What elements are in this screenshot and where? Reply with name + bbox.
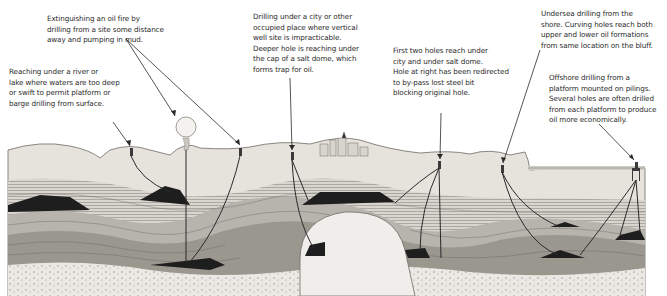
geology-cross-section [0, 0, 667, 296]
derrick-fire-relief [239, 148, 242, 156]
derrick-city [291, 152, 294, 160]
derrick-shore [501, 165, 504, 173]
derrick-river [130, 148, 133, 156]
